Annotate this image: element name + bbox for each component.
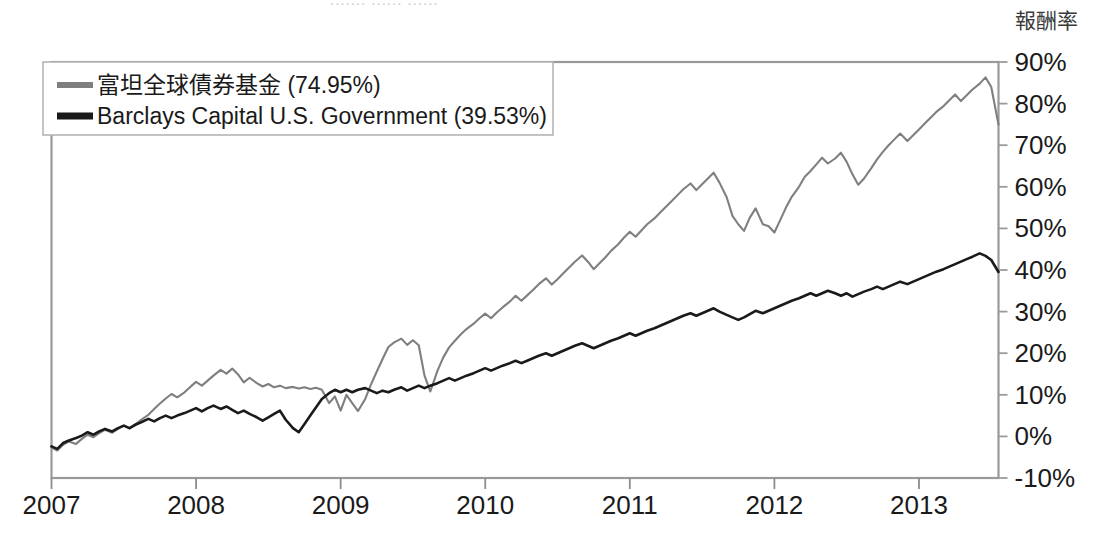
y-tick-label: 70% [1015,130,1067,160]
y-axis-ticks: 90%80%70%60%50%40%30%20%10%0%-10% [999,47,1076,493]
legend-label-templeton-global-bond-fund[interactable]: 富坦全球債券基金 (74.95%) [97,72,381,98]
x-tick-label: 2007 [23,490,81,520]
y-tick-label: 20% [1015,338,1067,368]
y-tick-label: 40% [1015,255,1067,285]
y-tick-label: 90% [1015,47,1067,77]
chart-legend[interactable]: 富坦全球債券基金 (74.95%)Barclays Capital U.S. G… [43,62,553,135]
chart-figure: ....... ...... ...... 90%80%70%60%50%40%… [0,0,1108,560]
y-tick-label: 10% [1015,380,1067,410]
y-tick-label: 50% [1015,213,1067,243]
x-tick-label: 2011 [602,490,658,520]
y-tick-label: 80% [1015,89,1067,119]
x-tick-label: 2010 [456,490,514,520]
line-chart-canvas: 90%80%70%60%50%40%30%20%10%0%-10% 200720… [0,0,1108,560]
y-axis-title: 報酬率 [1015,9,1078,32]
x-tick-label: 2012 [745,490,803,520]
y-tick-label: 0% [1015,421,1053,451]
x-tick-label: 2008 [167,490,225,520]
y-tick-label: 60% [1015,172,1067,202]
y-tick-label: -10% [1015,463,1076,493]
y-tick-label: 30% [1015,297,1067,327]
series-line [52,253,999,449]
legend-label-barclays-capital-us-government[interactable]: Barclays Capital U.S. Government (39.53%… [97,103,547,129]
x-tick-label: 2013 [890,490,948,520]
x-tick-label: 2009 [312,490,370,520]
x-axis-ticks: 2007200820092010201120122013 [23,478,948,520]
